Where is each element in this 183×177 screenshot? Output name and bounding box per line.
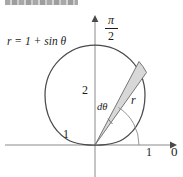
figure-canvas [0,0,183,177]
polar-cardioid-figure: r = 1 + sin θ π 2 2 1 1 0 r dθ [0,0,183,177]
polar-equation-label: r = 1 + sin θ [7,36,66,48]
two-denominator: 2 [108,29,114,43]
radius-two-label: 2 [82,84,88,96]
vertical-axis-label: π 2 [103,14,119,42]
polar-axis-zero-label: 0 [171,145,178,158]
radius-label: r [131,94,136,106]
vertical-axis [92,15,99,177]
axis-tick-one-label: 1 [146,146,152,158]
radius-one-label: 1 [63,128,69,140]
differential-angle-label: dθ [97,102,107,113]
pi-numerator: π [108,13,114,27]
